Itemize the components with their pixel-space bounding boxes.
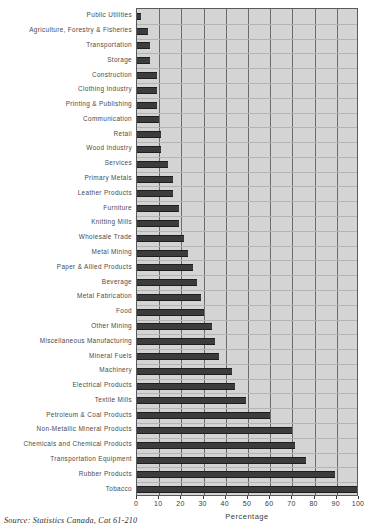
bar — [137, 161, 168, 168]
x-axis-tick — [225, 496, 226, 499]
bar-row — [137, 71, 358, 81]
category-label: Metal Fabrication — [0, 291, 132, 301]
category-label: Furniture — [0, 203, 132, 213]
bar-row — [137, 130, 358, 140]
bar — [137, 383, 235, 390]
bar-row — [137, 292, 358, 302]
x-axis-tick — [269, 496, 270, 499]
bar-row — [137, 174, 358, 184]
x-axis-tick-label: 90 — [332, 500, 340, 507]
category-label: Transportation Equipment — [0, 454, 132, 464]
category-label: Beverage — [0, 277, 132, 287]
x-axis-tick — [136, 496, 137, 499]
x-axis-tick — [247, 496, 248, 499]
bar — [137, 13, 141, 20]
category-label: Rubber Products — [0, 469, 132, 479]
bar-row — [137, 11, 358, 21]
bar — [137, 397, 246, 404]
x-axis-tick-label: 30 — [198, 500, 206, 507]
x-axis-tick-label: 80 — [309, 500, 317, 507]
x-axis-title: Percentage — [136, 512, 358, 521]
bar-row — [137, 85, 358, 95]
category-label: Miscellaneous Manufacturing — [0, 336, 132, 346]
category-label: Wholesale Trade — [0, 232, 132, 242]
category-label: Printing & Publishing — [0, 99, 132, 109]
category-label: Services — [0, 158, 132, 168]
bar-row — [137, 26, 358, 36]
bar-chart: Public UtilitiesAgriculture, Forestry & … — [0, 0, 370, 530]
bar — [137, 294, 201, 301]
category-label: Construction — [0, 70, 132, 80]
bar-row — [137, 366, 358, 376]
chart-title-clipped — [40, 0, 270, 2]
bar — [137, 42, 150, 49]
bar-row — [137, 56, 358, 66]
bar — [137, 486, 357, 493]
bar-row — [137, 278, 358, 288]
category-label: Communication — [0, 114, 132, 124]
category-label: Leather Products — [0, 188, 132, 198]
category-label: Wood Industry — [0, 143, 132, 153]
category-label: Electrical Products — [0, 380, 132, 390]
bar — [137, 146, 161, 153]
bar — [137, 57, 150, 64]
bar — [137, 412, 270, 419]
category-label: Mineral Fuels — [0, 351, 132, 361]
source-note: Source: Statistics Canada, Cat 61-210 — [4, 516, 137, 525]
bar — [137, 220, 179, 227]
plot-area — [136, 8, 358, 496]
category-label: Petroleum & Coal Products — [0, 410, 132, 420]
bar-row — [137, 100, 358, 110]
bar-row — [137, 396, 358, 406]
category-axis-labels: Public UtilitiesAgriculture, Forestry & … — [0, 8, 132, 496]
bar-row — [137, 233, 358, 243]
bar — [137, 279, 197, 286]
bar — [137, 471, 335, 478]
category-label: Primary Metals — [0, 173, 132, 183]
category-label: Food — [0, 306, 132, 316]
x-axis-tick — [336, 496, 337, 499]
bar — [137, 72, 157, 79]
bar — [137, 368, 232, 375]
x-axis-tick-label: 20 — [176, 500, 184, 507]
x-axis-tick-label: 40 — [221, 500, 229, 507]
bar — [137, 131, 161, 138]
bar-row — [137, 263, 358, 273]
x-axis-tick — [314, 496, 315, 499]
bar — [137, 309, 204, 316]
category-label: Tobacco — [0, 484, 132, 494]
bar-row — [137, 381, 358, 391]
x-axis-tick — [158, 496, 159, 499]
bar — [137, 205, 179, 212]
bar — [137, 116, 159, 123]
bar-row — [137, 411, 358, 421]
bar — [137, 28, 148, 35]
bar-row — [137, 144, 358, 154]
category-label: Agriculture, Forestry & Fisheries — [0, 25, 132, 35]
category-label: Other Mining — [0, 321, 132, 331]
x-axis-tick-label: 70 — [287, 500, 295, 507]
category-label: Storage — [0, 55, 132, 65]
bar-row — [137, 159, 358, 169]
bar-row — [137, 337, 358, 347]
bar-row — [137, 115, 358, 125]
bar — [137, 250, 188, 257]
x-axis-tick-label: 0 — [134, 500, 138, 507]
x-axis-tick-label: 10 — [154, 500, 162, 507]
bar-row — [137, 425, 358, 435]
category-label: Textile Mills — [0, 395, 132, 405]
bar — [137, 338, 215, 345]
bar-row — [137, 470, 358, 480]
bar — [137, 264, 193, 271]
category-label: Metal Mining — [0, 247, 132, 257]
category-label: Transportation — [0, 40, 132, 50]
bar — [137, 442, 295, 449]
x-axis-tick-label: 50 — [243, 500, 251, 507]
plot-wrapper — [136, 8, 358, 496]
category-label: Chemicals and Chemical Products — [0, 439, 132, 449]
bar — [137, 235, 184, 242]
category-label: Public Utilities — [0, 10, 132, 20]
bar — [137, 353, 219, 360]
bar — [137, 190, 173, 197]
x-axis-tick — [180, 496, 181, 499]
